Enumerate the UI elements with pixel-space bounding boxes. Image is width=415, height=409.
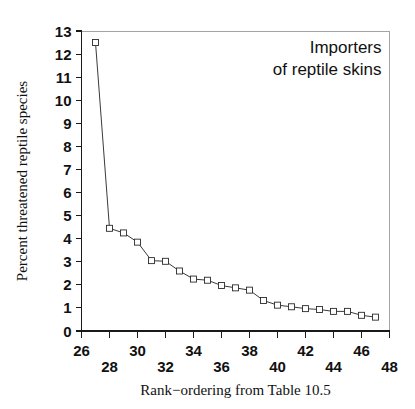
data-point-marker xyxy=(303,306,309,312)
data-point-marker xyxy=(219,283,225,289)
y-axis-tick-labels: 012345678910111213 xyxy=(55,23,72,340)
annotation-line: of reptile skins xyxy=(273,60,382,79)
data-point-marker xyxy=(289,304,295,310)
y-tick-label: 2 xyxy=(63,276,71,293)
x-tick-label: 48 xyxy=(381,358,398,375)
data-point-marker xyxy=(121,230,127,236)
data-point-marker xyxy=(149,258,155,264)
y-tick-label: 6 xyxy=(63,184,71,201)
data-point-marker xyxy=(359,312,365,318)
data-point-marker xyxy=(93,40,99,46)
y-axis-title: Percent threatened reptile species xyxy=(14,81,30,281)
y-tick-label: 4 xyxy=(63,230,72,247)
data-point-marker xyxy=(331,308,337,314)
y-tick-label: 8 xyxy=(63,138,71,155)
x-tick-label: 32 xyxy=(157,358,174,375)
x-tick-label: 36 xyxy=(213,358,230,375)
y-tick-label: 9 xyxy=(63,115,71,132)
x-tick-label: 34 xyxy=(185,342,202,359)
x-tick-label: 46 xyxy=(353,342,370,359)
x-tick-label: 42 xyxy=(297,342,314,359)
y-tick-label: 12 xyxy=(55,46,72,63)
reptile-skins-line-chart: 262830323436384042444648 012345678910111… xyxy=(0,0,415,409)
data-point-marker xyxy=(107,225,113,231)
y-tick-label: 3 xyxy=(63,253,71,270)
x-tick-label: 28 xyxy=(101,358,118,375)
x-axis-tick-labels: 262830323436384042444648 xyxy=(73,342,398,375)
data-point-marker xyxy=(373,314,379,320)
data-point-marker xyxy=(163,258,169,264)
y-tick-label: 7 xyxy=(63,161,71,178)
y-axis-ticks xyxy=(76,31,82,331)
x-tick-label: 38 xyxy=(241,342,258,359)
axis-titles: Rank−ordering from Table 10.5Percent thr… xyxy=(14,81,331,398)
data-point-marker xyxy=(317,307,323,313)
data-point-marker xyxy=(233,285,239,291)
y-tick-label: 5 xyxy=(63,207,71,224)
y-tick-label: 10 xyxy=(55,92,72,109)
y-tick-label: 1 xyxy=(63,299,71,316)
x-axis-ticks xyxy=(82,331,390,338)
plot-annotation-importers: Importersof reptile skins xyxy=(273,38,382,79)
annotation-line: Importers xyxy=(310,38,382,57)
data-series-line xyxy=(96,43,376,318)
data-point-marker xyxy=(261,298,267,304)
x-tick-label: 40 xyxy=(269,358,286,375)
series-line xyxy=(96,43,376,318)
data-point-marker xyxy=(135,239,141,245)
data-point-marker xyxy=(275,302,281,308)
data-series-markers xyxy=(93,40,379,321)
data-point-marker xyxy=(191,276,197,282)
y-tick-label: 13 xyxy=(55,23,72,40)
x-tick-label: 30 xyxy=(129,342,146,359)
y-tick-label: 11 xyxy=(56,69,72,86)
data-point-marker xyxy=(247,287,253,293)
x-axis-title: Rank−ordering from Table 10.5 xyxy=(140,382,330,398)
data-point-marker xyxy=(177,268,183,274)
x-tick-label: 26 xyxy=(73,342,90,359)
x-tick-label: 44 xyxy=(325,358,342,375)
y-tick-label: 0 xyxy=(63,323,71,340)
data-point-marker xyxy=(205,277,211,283)
chart-page: 262830323436384042444648 012345678910111… xyxy=(0,0,415,409)
data-point-marker xyxy=(345,308,351,314)
